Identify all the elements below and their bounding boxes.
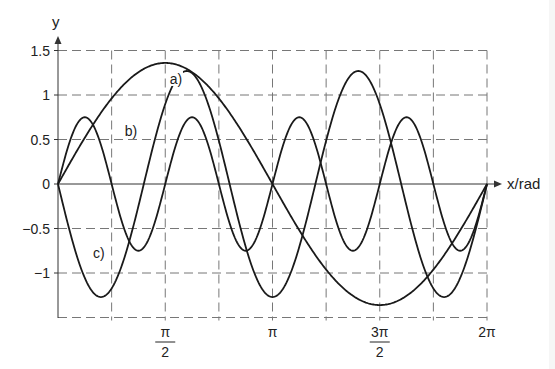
y-tick-label: 1.5	[31, 43, 51, 59]
y-tick-label: −0.5	[22, 221, 50, 237]
x-axis-arrow-icon	[494, 181, 502, 188]
y-axis-title: y	[52, 13, 60, 30]
x-tick-numerator: π	[160, 324, 170, 340]
x-tick-label: π2	[155, 324, 175, 360]
x-tick-labels: π2π3π22π	[155, 324, 496, 360]
series-label: b)	[125, 123, 137, 139]
y-tick-label: 0	[42, 176, 50, 192]
x-tick-denominator: 2	[376, 344, 384, 360]
x-tick-numerator: π	[268, 324, 278, 340]
chart: y x/rad 1.510.50−0.5−1 π2π3π22π a)b)c)	[0, 0, 555, 369]
axes: y x/rad	[52, 13, 540, 318]
y-tick-label: 1	[42, 87, 50, 103]
y-tick-labels: 1.510.50−0.5−1	[22, 43, 58, 282]
y-tick-label: 0.5	[31, 132, 51, 148]
y-tick-label: −1	[34, 265, 50, 281]
x-tick-numerator: 3π	[371, 324, 389, 340]
x-tick-label: π	[268, 324, 278, 340]
x-tick-denominator: 2	[161, 344, 169, 360]
x-tick-label: 3π2	[370, 324, 390, 360]
series-label: a)	[170, 71, 182, 87]
x-axis-title: x/rad	[507, 175, 540, 192]
y-axis-arrow-icon	[55, 36, 62, 44]
x-tick-numerator: 2π	[478, 324, 496, 340]
x-tick-label: 2π	[478, 324, 496, 340]
series-label: c)	[93, 245, 105, 261]
